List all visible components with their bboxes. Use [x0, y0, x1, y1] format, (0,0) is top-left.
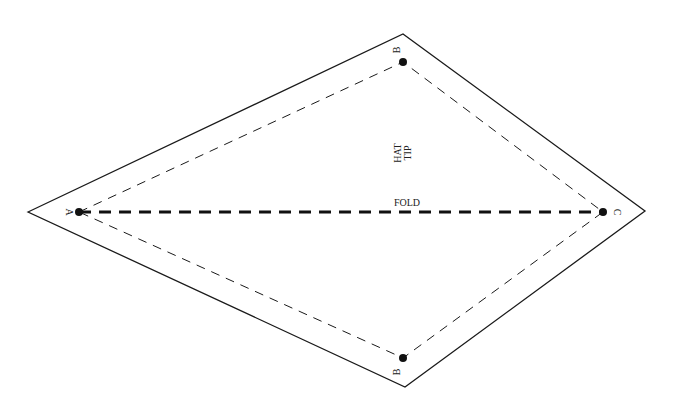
- hat-tip-pattern: A C B B HAT TIP FOLD: [0, 0, 682, 408]
- point-a-dot: [75, 208, 83, 216]
- point-b-top-dot: [399, 58, 407, 66]
- label-b-top: B: [391, 46, 402, 53]
- inner-seam-line: [79, 62, 603, 358]
- label-a: A: [64, 208, 75, 216]
- point-b-bottom-dot: [399, 354, 407, 362]
- label-tip: TIP: [402, 145, 413, 160]
- label-b-bottom: B: [391, 368, 402, 375]
- label-c: C: [612, 209, 623, 216]
- point-c-dot: [599, 208, 607, 216]
- label-fold: FOLD: [394, 197, 420, 208]
